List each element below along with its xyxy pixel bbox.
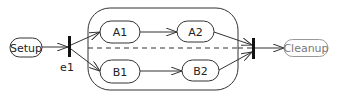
edge-fork-b1 [71, 49, 100, 71]
node-a2[interactable]: A2 [177, 21, 214, 42]
node-cleanup-label: Cleanup [283, 42, 328, 55]
node-b2[interactable]: B2 [182, 60, 219, 81]
fork-bar [68, 36, 71, 57]
fork-label: e1 [60, 61, 74, 74]
join-bar [252, 38, 255, 59]
edge-b2-join [219, 52, 252, 70]
node-a2-label: A2 [188, 26, 203, 39]
edge-fork-a1 [71, 32, 100, 45]
node-b1-label: B1 [113, 66, 128, 79]
node-cleanup[interactable]: Cleanup [283, 40, 328, 57]
edge-a2-join [214, 32, 252, 45]
node-setup[interactable]: Setup [10, 38, 42, 57]
activity-diagram: Setup e1 A1 A2 B1 B2 Cleanup [0, 0, 337, 98]
node-setup-label: Setup [10, 42, 42, 55]
node-b2-label: B2 [193, 65, 208, 78]
node-a1[interactable]: A1 [100, 21, 140, 43]
node-b1[interactable]: B1 [100, 60, 140, 83]
node-a1-label: A1 [113, 26, 128, 39]
